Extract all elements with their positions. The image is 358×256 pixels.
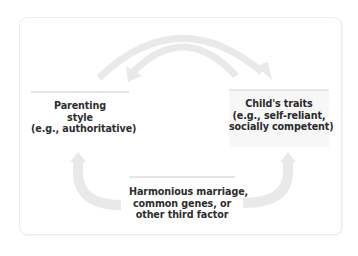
node-divider [31, 91, 129, 93]
node-label-line: Parenting [31, 100, 129, 112]
node-label-line: socially competent) [229, 121, 329, 133]
node-label-line: (e.g., authoritative) [31, 123, 129, 135]
node-label-line: Child's traits [229, 98, 329, 110]
arc-arrow-child-to-parenting-icon [126, 47, 236, 82]
curved-arrow-third-to-child-icon [243, 152, 296, 203]
node-label-line: other third factor [129, 209, 235, 221]
node-divider [229, 89, 329, 91]
node-parenting-style: Parenting style (e.g., authoritative) [31, 91, 129, 141]
node-label-line: common genes, or [129, 198, 235, 210]
curved-arrow-third-to-parenting-icon [70, 152, 121, 205]
node-label-line: style [31, 112, 129, 124]
node-label-line: (e.g., self-reliant, [229, 110, 329, 122]
node-label-line: Harmonious marriage, [129, 186, 235, 198]
node-divider [129, 176, 235, 178]
node-childs-traits: Child's traits (e.g., self-reliant, soci… [229, 89, 329, 147]
node-third-factor: Harmonious marriage, common genes, or ot… [129, 176, 235, 234]
